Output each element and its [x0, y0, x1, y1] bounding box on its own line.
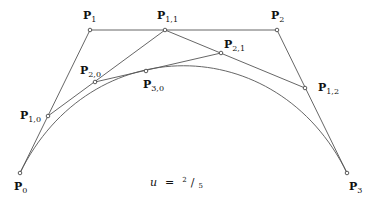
control-polygon-edge: [277, 30, 347, 173]
point-marker-P2-0: [93, 80, 97, 84]
point-label-P2: P2: [271, 9, 284, 24]
point-label-P2-0: P2,0: [80, 64, 101, 79]
point-label-P0: P0: [14, 180, 27, 195]
point-marker-P1-2: [303, 86, 307, 90]
point-marker-P3-0: [144, 69, 148, 73]
param-equals: =: [165, 176, 174, 189]
level1-segment: [48, 30, 165, 116]
point-marker-P2-1: [219, 51, 223, 55]
control-polygon-edge: [20, 30, 90, 173]
level1-segment: [165, 30, 305, 88]
param-numerator: 2: [182, 176, 186, 184]
point-marker-P0: [18, 171, 22, 175]
de-casteljau-diagram: P0P1P2P3P1,0P1,1P1,2P2,0P2,1P3,0 u = 2 /…: [0, 0, 378, 203]
bezier-curve: [20, 66, 347, 173]
point-label-P1-2: P1,2: [318, 81, 339, 96]
point-marker-P1-0: [46, 114, 50, 118]
point-marker-P1-1: [163, 28, 167, 32]
parameter-caption: u = 2 / 5: [150, 168, 203, 190]
point-label-P2-1: P2,1: [224, 38, 245, 53]
point-marker-P3: [345, 171, 349, 175]
point-label-P3-0: P3,0: [143, 78, 164, 93]
point-label-P1-0: P1,0: [20, 109, 41, 124]
param-symbol: u: [150, 176, 157, 189]
param-slash: /: [191, 176, 195, 189]
point-label-P1: P1: [83, 9, 96, 24]
point-marker-P1: [88, 28, 92, 32]
point-label-P1-1: P1,1: [157, 9, 178, 24]
point-marker-P2: [275, 28, 279, 32]
param-denominator: 5: [199, 182, 203, 190]
control-polygon: [20, 30, 347, 173]
point-label-P3: P3: [349, 180, 362, 195]
